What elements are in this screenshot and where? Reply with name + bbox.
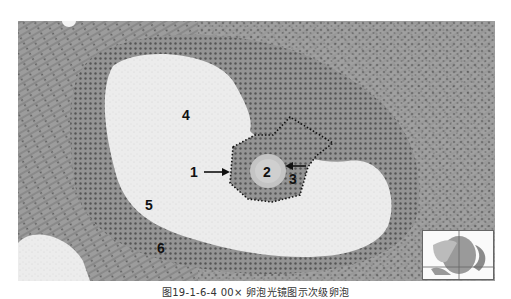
- figure-caption: 图19-1-6-4 00× 卵泡光镜图示次级卵泡: [0, 284, 511, 299]
- orientation-inset: [422, 230, 494, 280]
- micrograph-figure: 4 1 2 3 5 6: [18, 21, 495, 281]
- label-6: 6: [157, 241, 165, 255]
- label-4: 4: [182, 108, 190, 122]
- label-3: 3: [289, 172, 297, 186]
- label-2: 2: [263, 165, 271, 179]
- ovary-thumbnail-icon: [423, 231, 494, 280]
- label-5: 5: [145, 198, 153, 212]
- label-1: 1: [190, 165, 198, 179]
